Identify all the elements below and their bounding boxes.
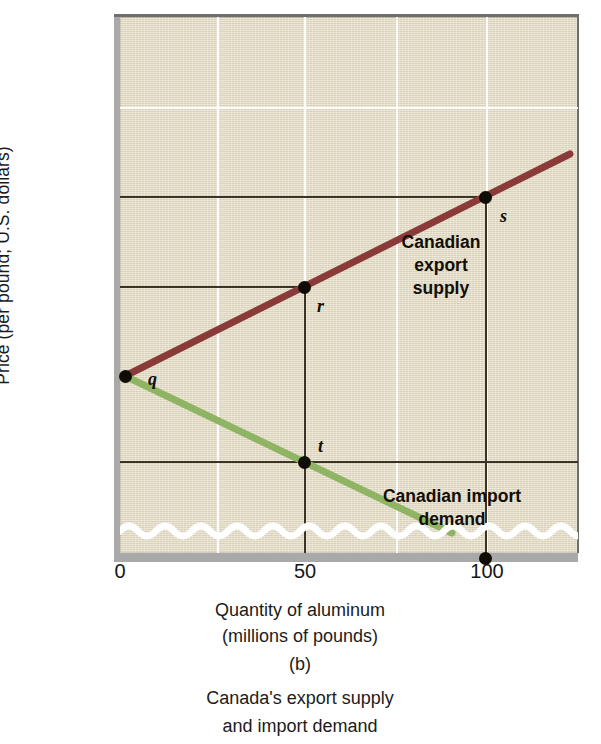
figure-canada-export-supply-import-demand: Price (per pound; U.S. dollars) $1.50 1.… bbox=[0, 0, 601, 744]
annotation-canadian-import-demand: Canadian import demand bbox=[352, 485, 552, 531]
x-axis-title-line-2: (millions of pounds) bbox=[60, 623, 540, 649]
figure-caption: Canada's export supply and import demand bbox=[60, 684, 540, 740]
x-axis-title: Quantity of aluminum (millions of pounds… bbox=[60, 597, 540, 649]
point-label-q: q bbox=[148, 369, 157, 390]
panel-letter: (b) bbox=[60, 654, 540, 675]
data-point-s bbox=[479, 191, 492, 204]
annotation-export-line-2: export bbox=[381, 254, 501, 277]
figure-caption-line-2: and import demand bbox=[60, 712, 540, 740]
annotation-export-line-1: Canadian bbox=[381, 231, 501, 254]
point-label-t: t bbox=[318, 436, 323, 457]
data-point-q bbox=[119, 370, 132, 383]
annotation-export-line-3: supply bbox=[381, 277, 501, 300]
axis-point-100 bbox=[479, 552, 492, 565]
plot-area: q r s t Canadian export supply Canadian … bbox=[120, 17, 578, 553]
y-axis-title: Price (per pound; U.S. dollars) bbox=[0, 51, 14, 481]
annotation-import-line-1: Canadian import bbox=[352, 485, 552, 508]
figure-caption-line-1: Canada's export supply bbox=[60, 684, 540, 712]
data-point-t bbox=[298, 456, 311, 469]
curve-layer bbox=[120, 17, 578, 553]
x-axis-title-line-1: Quantity of aluminum bbox=[60, 597, 540, 623]
annotation-canadian-export-supply: Canadian export supply bbox=[381, 231, 501, 300]
x-tick-label-50: 50 bbox=[265, 560, 345, 583]
point-label-r: r bbox=[317, 296, 324, 317]
data-point-r bbox=[298, 281, 311, 294]
annotation-import-line-2: demand bbox=[352, 508, 552, 531]
x-axis-bar bbox=[114, 553, 578, 562]
x-tick-label-0: 0 bbox=[80, 560, 160, 583]
point-label-s: s bbox=[500, 206, 507, 227]
curve-canadian-export-supply bbox=[125, 154, 570, 376]
